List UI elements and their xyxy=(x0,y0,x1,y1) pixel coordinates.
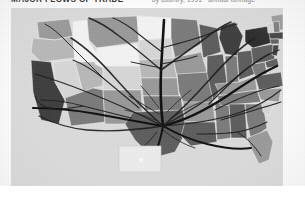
state-ms[interactable] xyxy=(215,102,231,140)
map-viewport[interactable] xyxy=(11,8,283,186)
state-wa[interactable] xyxy=(37,19,73,40)
state-ok[interactable] xyxy=(143,96,183,112)
figure-title-strip: MAJOR FLOWS OF TRADE by country, 1991 · … xyxy=(0,0,305,7)
page-subtitle: by country, 1991 · annual tonnage xyxy=(152,0,255,3)
state-ct[interactable] xyxy=(270,39,279,44)
state-or[interactable] xyxy=(31,36,75,62)
inset-marker-dot xyxy=(139,158,143,162)
state-ma[interactable] xyxy=(269,32,283,39)
us-choropleth-svg[interactable] xyxy=(11,8,283,186)
state-sd[interactable] xyxy=(139,38,173,60)
page-title: MAJOR FLOWS OF TRADE xyxy=(11,0,124,4)
state-nh[interactable] xyxy=(273,21,280,33)
bottom-margin xyxy=(0,186,305,209)
trade-flow-map-figure: MAJOR FLOWS OF TRADE by country, 1991 · … xyxy=(0,0,305,209)
